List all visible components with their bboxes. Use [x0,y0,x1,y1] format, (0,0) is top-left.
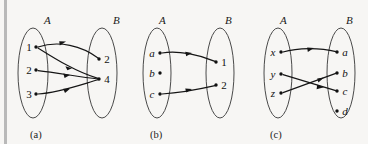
panel-b-domain-oval [143,28,171,118]
panel-c-domain-dot-x [279,50,282,53]
panel-a-domain-dot-1 [34,45,37,48]
panel-c-domain-node-z: z [271,87,275,99]
panel-b-codomain-node-2: 2 [221,79,227,91]
panel-a: A B [14,0,132,144]
panel-a-domain-node-2: 2 [26,64,32,76]
panel-a-domain-oval [18,28,48,118]
panel-c-domain-dot-z [279,91,282,94]
panel-c-caption: (c) [270,129,282,140]
panel-a-codomain-node-4: 4 [104,73,110,85]
panel-a-codomain-node-2: 2 [104,53,110,65]
panel-c-codomain-node-a: a [342,46,348,58]
panel-c-codomain-node-d: d [342,105,348,117]
panel-b-codomain-node-1: 1 [221,56,227,68]
panel-c-codomain-node-b: b [342,67,348,79]
panel-c: A B [258,0,366,144]
page-edge-bar [4,0,7,144]
panel-c-domain-dot-y [279,72,282,75]
panel-c-codomain-dot-d [335,109,338,112]
panel-c-codomain-node-c: c [343,85,348,97]
panel-c-arrow-x-to-a [283,48,336,52]
panel-c-domain-oval [264,28,292,118]
panel-b: A B a b c 1 2 (b) [138,0,246,144]
panel-a-codomain-oval [87,28,117,118]
panel-a-domain-dot-2 [34,68,37,71]
panel-a-domain-dot-3 [34,92,37,95]
panel-b-domain-dot-c [158,92,161,95]
panel-b-caption: (b) [150,129,162,140]
panel-b-domain-node-b: b [149,67,155,79]
panel-c-codomain-oval [327,28,355,118]
panel-b-domain-dot-a [158,51,161,54]
panel-b-domain-node-c: c [150,88,155,100]
panel-c-domain-node-y: y [271,68,276,80]
panel-b-domain-node-a: a [149,47,155,59]
panel-c-domain-node-x: x [271,46,276,58]
panel-a-caption: (a) [30,129,42,140]
panel-b-domain-dot-b [158,71,161,74]
arrow-diagram-figure: A B [0,0,368,144]
panel-a-domain-node-1: 1 [26,41,32,53]
panel-a-domain-node-3: 3 [26,88,32,100]
panel-b-codomain-oval [206,28,234,118]
